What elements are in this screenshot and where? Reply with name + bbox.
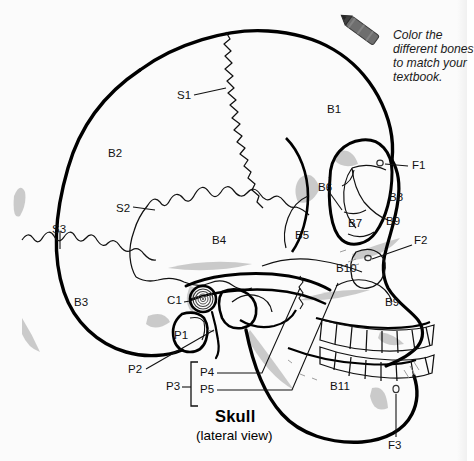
label-P5: P5 (200, 384, 214, 396)
supraorbital-foramen (377, 160, 383, 166)
mental-foramen (393, 385, 399, 392)
label-P3: P3 (166, 381, 180, 393)
page-title: Skull (215, 407, 255, 426)
label-B7: B7 (348, 218, 362, 230)
lambdoid-suture-line (22, 232, 156, 260)
label-F1: F1 (412, 160, 426, 172)
instruction-line-3: to match your (393, 56, 467, 70)
label-P2: P2 (128, 364, 142, 376)
crayon-icon (338, 11, 380, 46)
bracket-P3 (191, 362, 198, 406)
coronal-suture-line (224, 32, 263, 208)
instruction-line-4: textbook. (393, 70, 442, 84)
label-B9-orbit: B9 (386, 216, 400, 228)
label-P4: P4 (200, 367, 214, 379)
label-B4: B4 (212, 235, 226, 247)
label-S1: S1 (177, 90, 191, 102)
temporal-squama-border (130, 205, 148, 277)
squamous-suture-line (148, 187, 309, 215)
label-S3: S3 (52, 224, 66, 236)
label-C1: C1 (167, 295, 182, 307)
label-F3: F3 (388, 440, 402, 452)
label-B11: B11 (330, 381, 350, 393)
label-B6: B6 (318, 182, 332, 194)
mandibular-notch (240, 310, 296, 327)
label-B3: B3 (74, 297, 88, 309)
label-B8: B8 (389, 192, 403, 204)
label-S2: S2 (116, 203, 130, 215)
styloid-process (212, 312, 219, 358)
leader-P4 (217, 288, 300, 373)
page-subtitle: (lateral view) (196, 428, 273, 443)
bone-texture-marks (208, 250, 419, 380)
label-B10: B10 (336, 263, 357, 275)
label-B1: B1 (327, 104, 341, 116)
label-B9-maxilla: B9 (385, 297, 399, 309)
label-F2: F2 (414, 235, 428, 247)
instruction-line-1: Color the (393, 28, 442, 42)
label-P1: P1 (174, 330, 188, 342)
leader-S1 (194, 88, 226, 95)
label-B5: B5 (295, 230, 309, 242)
label-B2: B2 (108, 148, 122, 160)
instruction-line-2: different bones (393, 42, 474, 56)
zygomaticotemporal-suture (299, 276, 303, 309)
